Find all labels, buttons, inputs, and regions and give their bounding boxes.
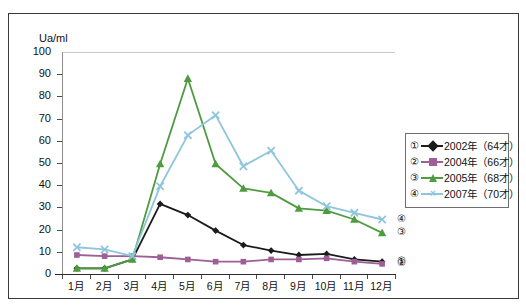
series-marker xyxy=(241,259,247,265)
legend-item-index: ① xyxy=(410,141,421,151)
legend-marker-triangle-icon xyxy=(429,174,437,182)
series-marker xyxy=(213,259,219,265)
x-tick-label: 12月 xyxy=(364,281,398,292)
series-marker xyxy=(211,160,219,168)
series-marker xyxy=(268,257,274,263)
legend-item-label: 2004年（66才） xyxy=(443,157,519,168)
series-marker xyxy=(74,252,80,258)
legend-item-index: ④ xyxy=(410,189,421,199)
y-tick-label: 10 xyxy=(23,246,51,257)
line-chart-svg xyxy=(63,53,396,275)
y-tick-label: 70 xyxy=(23,113,51,124)
series-marker xyxy=(185,257,191,263)
series-line xyxy=(77,79,382,269)
y-tick-label: 90 xyxy=(23,68,51,79)
legend-item[interactable]: ④×2007年（70才） xyxy=(410,186,503,202)
legend: ①2002年（64才）②2004年（66才）③2005年（68才）④×2007年… xyxy=(405,133,509,208)
series-callout: ③ xyxy=(397,227,406,237)
series-marker xyxy=(268,147,275,154)
series-marker xyxy=(240,163,247,170)
series-line xyxy=(77,115,382,256)
y-tick-label: 40 xyxy=(23,179,51,190)
legend-item-label: 2005年（68才） xyxy=(443,173,519,184)
y-tick-label: 60 xyxy=(23,135,51,146)
series-marker xyxy=(212,227,219,234)
top-caption-strip xyxy=(0,0,526,10)
series-marker xyxy=(156,160,164,168)
y-tick-label: 20 xyxy=(23,224,51,235)
legend-item[interactable]: ②2004年（66才） xyxy=(410,154,503,170)
x-axis-line xyxy=(55,274,396,275)
series-marker xyxy=(157,201,164,208)
series-marker xyxy=(352,259,358,265)
legend-item-swatch xyxy=(421,140,443,152)
series-marker xyxy=(268,247,275,254)
series-marker xyxy=(184,212,191,219)
y-tick-label: 80 xyxy=(23,90,51,101)
figure-frame: Ua/ml 0102030405060708090100 1月2月3月4月5月6… xyxy=(8,13,519,299)
series-marker xyxy=(379,261,385,267)
series-marker xyxy=(240,242,247,249)
series-marker xyxy=(157,183,164,190)
chart-series xyxy=(73,74,387,271)
series-marker xyxy=(296,257,302,263)
series-marker xyxy=(102,253,108,259)
legend-item-label: 2007年（70才） xyxy=(443,189,519,200)
series-marker xyxy=(184,132,191,139)
legend-item-swatch: × xyxy=(421,188,443,200)
y-tick-label: 30 xyxy=(23,201,51,212)
y-axis-title: Ua/ml xyxy=(39,32,68,44)
plot-area xyxy=(62,52,395,274)
y-tick-label: 0 xyxy=(23,268,51,279)
legend-marker-cross-icon: × xyxy=(429,190,437,198)
legend-item-swatch xyxy=(421,172,443,184)
series-marker xyxy=(295,187,302,194)
legend-item-index: ② xyxy=(410,157,421,167)
y-tick-label: 50 xyxy=(23,157,51,168)
series-marker xyxy=(212,112,219,119)
legend-marker-diamond-icon xyxy=(427,140,438,151)
legend-marker-square-icon xyxy=(429,158,437,166)
legend-item[interactable]: ①2002年（64才） xyxy=(410,138,503,154)
legend-item[interactable]: ③2005年（68才） xyxy=(410,170,503,186)
series-marker xyxy=(324,256,330,262)
chart-series xyxy=(74,252,385,266)
y-tick-label: 100 xyxy=(23,46,51,57)
series-marker xyxy=(157,254,163,260)
legend-item-swatch xyxy=(421,156,443,168)
legend-item-index: ③ xyxy=(410,173,421,183)
series-callout: ④ xyxy=(397,214,406,224)
legend-item-label: 2002年（64才） xyxy=(443,141,519,152)
series-callout: ② xyxy=(397,258,406,268)
series-marker xyxy=(184,74,192,82)
